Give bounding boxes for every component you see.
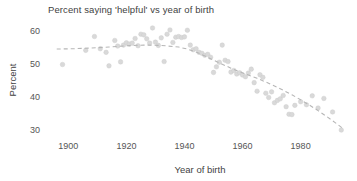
data-point	[133, 36, 138, 41]
x-tick-1940: 1940	[174, 141, 194, 151]
y-axis-tick-labels: 30405060	[30, 26, 40, 135]
data-point	[104, 50, 109, 55]
x-axis-title: Year of birth	[175, 164, 226, 175]
y-tick-60: 60	[30, 26, 40, 36]
data-point	[130, 41, 135, 46]
data-point	[261, 75, 266, 80]
data-point	[168, 28, 173, 33]
y-tick-50: 50	[30, 59, 40, 69]
data-point	[284, 104, 289, 109]
data-point	[171, 40, 176, 45]
y-axis-title: Percent	[7, 63, 18, 96]
data-point	[339, 128, 344, 133]
data-point	[185, 28, 190, 33]
data-point	[142, 33, 147, 38]
data-point	[249, 67, 254, 72]
x-tick-1900: 1900	[58, 141, 78, 151]
y-tick-30: 30	[30, 125, 40, 135]
scatter-plot: 30405060 19001920194019601980 Percent Ye…	[0, 0, 357, 181]
x-tick-1920: 1920	[116, 141, 136, 151]
data-point	[144, 37, 149, 42]
data-point	[322, 96, 327, 101]
data-point	[214, 65, 219, 70]
data-point	[263, 91, 268, 96]
data-point	[211, 70, 216, 75]
trend-line	[57, 45, 344, 129]
data-point	[107, 64, 112, 69]
data-point	[266, 95, 271, 100]
y-tick-40: 40	[30, 92, 40, 102]
data-point	[92, 34, 97, 39]
data-point	[281, 93, 286, 98]
data-point	[226, 59, 231, 64]
x-tick-1960: 1960	[233, 141, 253, 151]
data-point	[150, 26, 155, 31]
data-point	[330, 110, 335, 115]
data-point	[255, 89, 260, 94]
data-point	[118, 60, 123, 65]
data-point	[188, 43, 193, 48]
data-point	[310, 94, 315, 99]
data-point	[290, 112, 295, 117]
data-point	[162, 59, 167, 64]
data-point	[159, 36, 164, 41]
data-point-group	[60, 26, 343, 133]
chart-container: Percent saying 'helpful' vs year of birt…	[0, 0, 357, 181]
data-point	[252, 80, 257, 85]
x-axis-tick-labels: 19001920194019601980	[58, 141, 310, 151]
data-point	[269, 90, 274, 95]
x-tick-1980: 1980	[291, 141, 311, 151]
data-point	[220, 43, 225, 48]
data-point	[60, 62, 65, 67]
data-point	[165, 32, 170, 37]
data-point	[182, 35, 187, 40]
data-point	[293, 103, 298, 108]
data-point	[112, 38, 117, 43]
